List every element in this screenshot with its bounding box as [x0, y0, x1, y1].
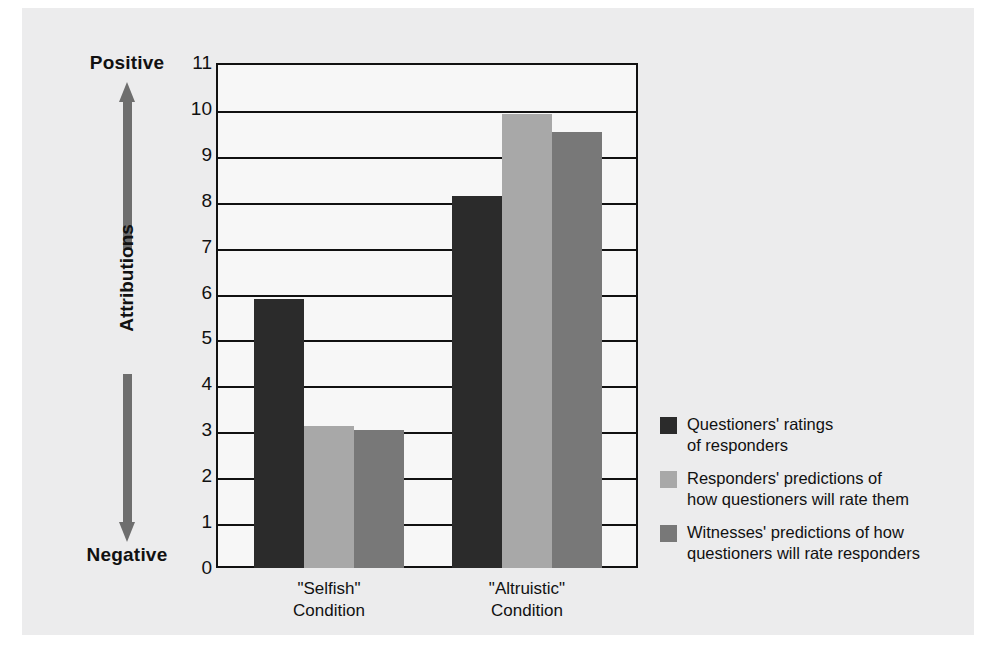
bar [354, 430, 404, 568]
y-tick-label: 0 [170, 557, 212, 579]
legend-label-line: how questioners will rate them [687, 489, 909, 510]
arrow-down-icon [119, 374, 135, 542]
legend-item[interactable]: Responders' predictions ofhow questioner… [660, 468, 960, 510]
y-tick-label: 6 [170, 282, 212, 304]
y-tick-label: 4 [170, 373, 212, 395]
y-tick-label: 11 [170, 52, 212, 74]
y-axis-title: Attributions [116, 173, 138, 383]
attribution-axis-annotation: Positive Attributions Negative [72, 52, 182, 572]
legend-item[interactable]: Witnesses' predictions of howquestioners… [660, 522, 960, 564]
bar [304, 426, 354, 568]
axis-pole-negative-label: Negative [72, 544, 182, 566]
x-axis-categories: "Selfish"Condition"Altruistic"Condition [216, 578, 638, 638]
y-tick-label: 3 [170, 419, 212, 441]
bar [552, 132, 602, 568]
bar-group-layer [216, 63, 638, 568]
y-tick-label: 9 [170, 144, 212, 166]
legend-label-line: questioners will rate responders [687, 543, 920, 564]
y-tick-label: 10 [170, 98, 212, 120]
y-tick-label: 8 [170, 190, 212, 212]
x-category-label-line: "Selfish" [229, 578, 429, 600]
legend-label-line: Responders' predictions of [687, 468, 909, 489]
x-category-label-line: "Altruistic" [427, 578, 627, 600]
bar [254, 299, 304, 568]
x-category-label: "Altruistic"Condition [427, 578, 627, 622]
y-tick-label: 2 [170, 465, 212, 487]
legend-label-line: Witnesses' predictions of how [687, 522, 920, 543]
legend-label: Responders' predictions ofhow questioner… [687, 468, 909, 510]
legend-label-line: Questioners' ratings [687, 414, 833, 435]
x-category-label: "Selfish"Condition [229, 578, 429, 622]
bar [452, 196, 502, 568]
x-category-label-line: Condition [427, 600, 627, 622]
y-tick-label: 1 [170, 511, 212, 533]
figure-root: Positive Attributions Negative 111098765… [0, 0, 998, 661]
y-axis-ticks: 11109876543210 [170, 63, 212, 568]
legend-swatch [660, 525, 677, 542]
legend-item[interactable]: Questioners' ratingsof responders [660, 414, 960, 456]
bar [502, 114, 552, 569]
axis-pole-positive-label: Positive [72, 52, 182, 74]
legend: Questioners' ratingsof respondersRespond… [660, 414, 960, 576]
y-tick-label: 7 [170, 236, 212, 258]
legend-label: Questioners' ratingsof responders [687, 414, 833, 456]
x-category-label-line: Condition [229, 600, 429, 622]
legend-swatch [660, 417, 677, 434]
legend-label: Witnesses' predictions of howquestioners… [687, 522, 920, 564]
legend-label-line: of responders [687, 435, 833, 456]
legend-swatch [660, 471, 677, 488]
y-tick-label: 5 [170, 327, 212, 349]
